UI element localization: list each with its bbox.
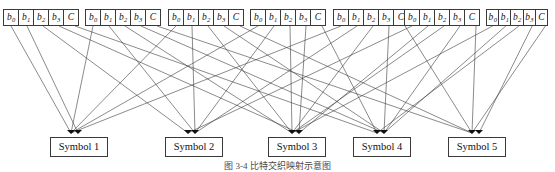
figure-caption: 图 3-4 比特交织映射示意图 (0, 161, 555, 172)
symbol-box-5: Symbol 5 (448, 137, 506, 157)
symbol-box-label: Symbol 1 (59, 142, 100, 153)
symbol-box-3: Symbol 3 (268, 137, 326, 157)
symbol-row: Symbol 1Symbol 2Symbol 3Symbol 4Symbol 5 (0, 0, 555, 172)
symbol-box-2: Symbol 2 (165, 137, 223, 157)
symbol-box-4: Symbol 4 (353, 137, 411, 157)
symbol-box-1: Symbol 1 (50, 137, 108, 157)
interleaver-mapping-figure: b0b1b2b3Cb0b1b2b3Cb0b1b2b3Cb0b1b2b3Cb0b1… (0, 0, 555, 172)
symbol-box-label: Symbol 2 (174, 142, 215, 153)
symbol-box-label: Symbol 3 (277, 142, 318, 153)
symbol-box-label: Symbol 4 (362, 142, 403, 153)
symbol-box-label: Symbol 5 (457, 142, 498, 153)
